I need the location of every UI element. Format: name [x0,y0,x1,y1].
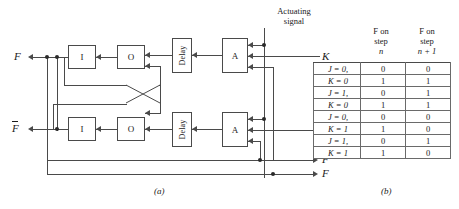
label-actuating-line1: Actuating [277,6,311,16]
arrowhead-inverter-bottom-in [96,126,101,132]
cell-f-step-n: 0 [361,87,406,99]
junction-f-bus [271,172,275,176]
cell-f-step-n: 1 [361,99,406,111]
wire-fbar-output-bus [47,160,315,161]
crossover-x [126,82,162,106]
label-output-f-right: F [322,167,329,179]
wire-j-to-and-bottom [248,130,320,131]
cell-condition: K = 1 [314,147,361,159]
cell-f-step-n1: 0 [406,63,451,75]
cell-f-step-n1: 1 [406,135,451,147]
label-actuating-signal: Actuating signal [263,6,325,26]
arrowhead-inverter-top-in [96,54,101,60]
label-output-fbar-left: F [12,122,19,134]
arrowhead-and-top-in1 [248,42,253,48]
cell-condition: K = 1 [314,123,361,135]
table-row: K = 0 1 1 [314,75,451,87]
truth-table: J = 0, 0 0 K = 0 1 1 J = 1, 0 1 K = 0 1 … [313,62,451,159]
arrowhead-and-bottom-in1 [248,116,253,122]
table-row: K = 1 1 0 [314,123,451,135]
table-row: J = 1, 0 1 [314,87,451,99]
header-col3-line1: F on [419,26,434,36]
block-delay-top-label: Delay [178,45,187,65]
arrowhead-and-top-in3 [248,64,253,70]
cell-condition: J = 1, [314,87,361,99]
wire-actuating-trunk [264,28,265,178]
header-col3-line2: step [420,36,434,46]
cell-condition: J = 0, [314,63,361,75]
caption-b: (b) [381,186,392,196]
label-output-fbar-left-text: F [12,122,19,134]
block-delay-bottom: Delay [172,112,192,147]
arrowhead-output-f-right [313,171,318,177]
header-col3-line3: n + 1 [418,46,437,56]
wire-cross-top-left-run [64,85,127,86]
block-inverter-bottom: I [68,117,96,141]
cell-f-step-n1: 1 [406,75,451,87]
arrowhead-output-fbar-left [28,126,33,132]
block-or-bottom: O [117,117,145,141]
arrowhead-delay-top-in [192,52,197,58]
arrowhead-or-top-in1 [145,52,150,58]
cell-condition: J = 0, [314,111,361,123]
junction-fbar-left [55,127,59,131]
block-delay-top: Delay [172,38,192,73]
cell-f-step-n: 0 [361,111,406,123]
table-row: J = 0, 0 0 [314,111,451,123]
header-col2-line2: step [374,36,388,46]
table-row: J = 1, 0 1 [314,135,451,147]
block-or-top: O [117,45,145,69]
arrowhead-or-top-in2 [145,63,150,69]
wire-cross-top-left-drop [64,57,65,85]
table-header-group: F on step n F on step n + 1 [358,26,450,56]
wire-f-bus-vertical [57,57,58,131]
table-row: J = 0, 0 0 [314,63,451,75]
junction-f-top-2 [55,55,59,59]
cell-f-step-n1: 1 [406,99,451,111]
wire-or-bottom-second-input-drop [160,85,161,113]
block-inverter-top: I [68,45,96,69]
block-and-top: A [222,38,248,73]
figure-jk-flip-flop: I O Delay A I O Delay A [0,0,459,209]
cell-f-step-n: 1 [361,75,406,87]
truth-table-body: J = 0, 0 0 K = 0 1 1 J = 1, 0 1 K = 0 1 … [314,63,451,159]
table-row: K = 1 1 0 [314,147,451,159]
header-col2-line1: F on [373,26,388,36]
block-delay-bottom-label: Delay [178,119,187,139]
junction-f-top [45,55,49,59]
cell-f-step-n1: 0 [406,147,451,159]
cell-condition: K = 0 [314,75,361,87]
wire-inverter-bottom-to-output [30,129,68,130]
table-header-f-step-n1: F on step n + 1 [404,26,450,56]
label-actuating-line2: signal [284,16,304,26]
junction-actuating-top [262,43,266,47]
wire-cross-bottom-left-rise [53,104,54,130]
wire-feedback-riser-top [273,67,274,160]
cell-f-step-n: 1 [361,147,406,159]
cell-f-step-n: 0 [361,63,406,75]
wire-cross-bottom-run [53,104,127,105]
cell-f-step-n1: 0 [406,111,451,123]
cell-f-step-n1: 1 [406,87,451,99]
cell-condition: J = 1, [314,135,361,147]
junction-fbar-bus [258,158,262,162]
block-and-bottom: A [222,112,248,147]
arrowhead-and-bottom-in3 [248,138,253,144]
header-col2-line3: n [379,46,383,56]
wire-f-bus-to-bottom [47,57,48,174]
arrowhead-and-bottom-in2 [248,127,253,133]
cell-f-step-n: 1 [361,123,406,135]
wire-inverter-top-to-output [30,57,68,58]
cell-f-step-n: 0 [361,135,406,147]
arrowhead-or-bottom-in2 [145,110,150,116]
caption-a: (a) [154,186,165,196]
cell-f-step-n1: 0 [406,123,451,135]
arrowhead-and-top-in2 [248,53,253,59]
cell-condition: K = 0 [314,99,361,111]
arrowhead-output-f-top [28,54,33,60]
wire-k-to-and-top [248,56,320,57]
table-header-f-step-n: F on step n [358,26,404,56]
arrowhead-delay-bottom-in [192,126,197,132]
label-output-f-top: F [14,50,21,62]
arrowhead-or-bottom-in1 [145,126,150,132]
